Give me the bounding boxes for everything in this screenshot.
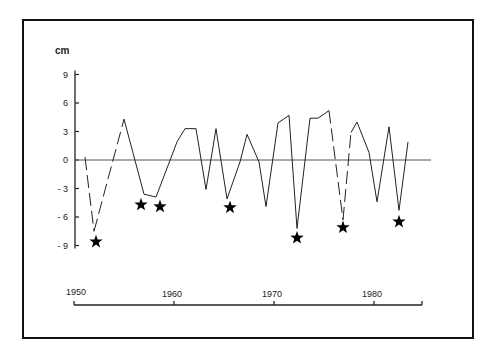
series-segment xyxy=(177,129,185,142)
series-segment xyxy=(357,122,369,152)
series-segment xyxy=(124,119,144,194)
star-icon xyxy=(336,220,349,233)
y-tick-label: 6 xyxy=(63,98,68,108)
star-icon xyxy=(153,200,166,213)
series-segment xyxy=(247,134,259,162)
series-segment xyxy=(216,129,227,199)
series-segment xyxy=(144,194,156,197)
star-icon xyxy=(223,201,236,214)
series-segment-dashed xyxy=(343,132,351,219)
series-segment xyxy=(196,129,206,190)
series-segment xyxy=(259,162,266,207)
series-segment-dashed xyxy=(94,119,124,231)
y-tick-label: 0 xyxy=(63,155,68,165)
star-icon xyxy=(89,235,102,248)
timeline-tick-label: 1950 xyxy=(66,287,86,297)
y-tick-label: - 3 xyxy=(57,184,68,194)
line-chart: cm 9630- 3- 6- 9 1950196019701980 xyxy=(0,0,491,358)
timeline-tick-label: 1980 xyxy=(362,289,382,299)
series-segment xyxy=(297,118,310,228)
series-segment xyxy=(227,162,240,199)
y-axis-unit-label: cm xyxy=(55,45,70,56)
star-icon xyxy=(134,198,147,211)
series-segment xyxy=(266,123,278,207)
series-segment xyxy=(399,142,408,210)
timeline-tick-label: 1960 xyxy=(162,289,182,299)
star-icon xyxy=(392,215,405,228)
series-segment xyxy=(389,127,399,211)
series-segment xyxy=(318,111,329,119)
series-segment xyxy=(289,115,297,228)
series-segment-dashed xyxy=(85,157,94,231)
data-series-line xyxy=(85,111,408,232)
x-axis-timeline: 1950196019701980 xyxy=(66,287,422,305)
star-markers xyxy=(89,198,405,248)
y-tick-label: - 9 xyxy=(57,241,68,251)
series-segment xyxy=(377,127,389,202)
series-segment xyxy=(156,142,177,197)
series-segment xyxy=(351,122,357,132)
series-segment xyxy=(206,129,216,190)
series-segment xyxy=(278,115,289,123)
timeline-tick-label: 1970 xyxy=(262,289,282,299)
y-tick-label: - 6 xyxy=(57,212,68,222)
y-tick-label: 3 xyxy=(63,127,68,137)
series-segment-dashed xyxy=(329,111,343,220)
star-icon xyxy=(290,231,303,244)
series-segment xyxy=(240,134,247,162)
y-tick-label: 9 xyxy=(63,70,68,80)
